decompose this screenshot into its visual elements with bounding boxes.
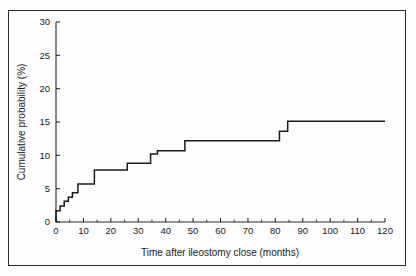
y-tick-label: 10 [39,150,50,161]
x-axis-title: Time after ileostomy close (months) [141,247,299,258]
y-axis-title: Cumulative probability (%) [16,64,27,181]
y-tick-label: 20 [39,83,50,94]
x-tick-label: 120 [377,225,393,236]
y-tick-label: 0 [45,216,50,227]
x-tick-label: 50 [188,225,199,236]
x-tick-label: 90 [297,225,308,236]
y-axis-tick-labels: 051015202530 [39,16,50,227]
x-tick-label: 10 [78,225,89,236]
y-tick-label: 30 [39,16,50,27]
x-tick-label: 20 [106,225,117,236]
x-tick-label: 0 [53,225,58,236]
y-tick-label: 25 [39,50,50,61]
x-tick-label: 80 [270,225,281,236]
y-tick-label: 5 [45,183,50,194]
x-axis-major-ticks [56,218,385,222]
figure-container: 0102030405060708090100110120 05101520253… [0,0,416,276]
x-tick-label: 70 [243,225,254,236]
y-tick-label: 15 [39,116,50,127]
chart-plot: 0102030405060708090100110120 05101520253… [0,0,416,276]
x-tick-label: 40 [160,225,171,236]
x-axis-tick-labels: 0102030405060708090100110120 [53,225,393,236]
x-tick-label: 100 [322,225,338,236]
y-axis-major-ticks [56,22,60,222]
x-tick-label: 60 [215,225,226,236]
x-tick-label: 110 [350,225,365,236]
cumulative-probability-curve [56,121,385,222]
x-tick-label: 30 [133,225,144,236]
